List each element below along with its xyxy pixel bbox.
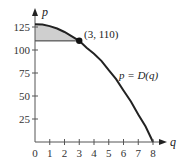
demand-chart: 0 1 2 3 4 5 6 7 8 25 50 75 100 125 p q (… bbox=[0, 0, 183, 165]
x-tick-label: 4 bbox=[91, 147, 97, 159]
x-axis-label: q bbox=[170, 135, 176, 149]
demand-curve bbox=[35, 24, 153, 142]
shaded-surplus-region bbox=[35, 24, 80, 41]
y-axis-arrow-icon bbox=[32, 8, 38, 16]
y-tick-label: 100 bbox=[14, 44, 31, 56]
x-tick-label: 1 bbox=[47, 147, 53, 159]
x-tick-label: 8 bbox=[150, 147, 156, 159]
x-tick-label: 5 bbox=[106, 147, 112, 159]
x-tick-label: 7 bbox=[136, 147, 142, 159]
point-label: (3, 110) bbox=[84, 28, 119, 41]
curve-label: p = D(q) bbox=[118, 69, 159, 82]
y-tick-label: 75 bbox=[19, 67, 31, 79]
x-axis-arrow-icon bbox=[159, 139, 167, 145]
x-tick-label: 2 bbox=[62, 147, 68, 159]
x-tick-label: 3 bbox=[77, 147, 83, 159]
y-tick-label: 25 bbox=[19, 113, 31, 125]
point-marker bbox=[76, 38, 82, 44]
y-tick-label: 125 bbox=[14, 21, 31, 33]
y-tick-label: 50 bbox=[19, 90, 31, 102]
x-tick-label: 0 bbox=[32, 147, 38, 159]
x-tick-label: 6 bbox=[121, 147, 127, 159]
y-axis-label: p bbox=[41, 5, 48, 19]
